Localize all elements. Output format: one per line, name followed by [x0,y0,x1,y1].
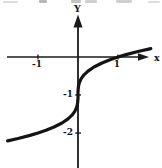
math-figure: x Y -11 -1-2 [0,0,162,168]
scan-artifact [116,0,132,3]
y-tick-label: -2 [63,127,73,137]
x-tick-label: -1 [32,59,42,69]
y-axis-arrowhead-icon [74,15,83,28]
function-curve [8,49,151,141]
graph-canvas: x Y -11 -1-2 [0,0,162,168]
scan-artifact [3,1,18,3]
y-axis-label: Y [73,3,81,14]
x-axis-label: x [154,52,160,63]
scan-artifact [39,0,47,3]
scan-artifact [71,0,81,3]
y-tick-label: -1 [63,89,73,99]
x-tick-label: 1 [114,59,120,69]
scan-artifact [148,1,160,3]
scan-artifact [85,0,97,3]
x-axis-arrowhead-icon [138,53,149,61]
